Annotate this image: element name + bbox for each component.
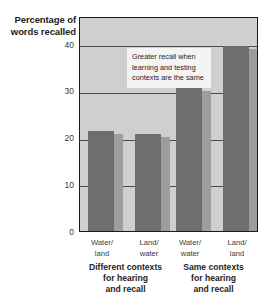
bar-shadow: [249, 49, 258, 231]
x-axis-category-label-line: water: [127, 249, 171, 260]
y-axis-title-line-2: words recalled: [2, 26, 76, 38]
bar: [88, 131, 114, 231]
x-axis-group-label: Different contextsfor hearingand recall: [80, 262, 172, 295]
x-axis-group-label: Same contextsfor hearingand recall: [168, 262, 260, 295]
x-axis-category-label-line: Water/: [80, 238, 124, 249]
bar-chart: Percentage of words recalled 010203040 G…: [0, 0, 266, 301]
x-axis-group-label-line: for hearing: [168, 273, 260, 284]
y-axis-tick-label: 40: [52, 41, 74, 50]
x-axis-category-label-line: water: [168, 249, 212, 260]
bar-shadow: [202, 91, 211, 231]
x-axis-category-label: Water/land: [80, 238, 124, 259]
bar: [223, 46, 249, 231]
annotation-line-3: contexts are the same: [132, 73, 207, 84]
x-axis-category-label-line: land: [215, 249, 259, 260]
x-axis-category-label: Land/water: [127, 238, 171, 259]
annotation-line-2: learning and testing: [132, 63, 207, 74]
bar-shadow: [114, 134, 123, 231]
x-axis-group-label-line: Same contexts: [168, 262, 260, 273]
x-axis-group-label-line: and recall: [168, 284, 260, 295]
x-axis-group-label-line: for hearing: [80, 273, 172, 284]
y-axis-tick-label: 20: [52, 134, 74, 143]
x-axis-category-label-line: Water/: [168, 238, 212, 249]
bar: [176, 88, 202, 231]
annotation-callout: Greater recall when learning and testing…: [127, 48, 211, 88]
y-axis-tick-label: 0: [52, 228, 74, 237]
bar: [135, 134, 161, 231]
x-axis-group-label-line: Different contexts: [80, 262, 172, 273]
y-axis-tick-label: 30: [52, 87, 74, 96]
y-axis-tick-label: 10: [52, 181, 74, 190]
x-axis-category-label: Land/land: [215, 238, 259, 259]
y-axis-title-line-1: Percentage of: [2, 14, 76, 26]
x-axis-category-label-line: land: [80, 249, 124, 260]
x-axis-group-label-line: and recall: [80, 284, 172, 295]
x-axis-category-label: Water/water: [168, 238, 212, 259]
y-axis-title: Percentage of words recalled: [2, 14, 76, 38]
x-axis-category-label-line: Land/: [215, 238, 259, 249]
annotation-line-1: Greater recall when: [132, 52, 207, 63]
bar-shadow: [161, 137, 170, 231]
x-axis-category-label-line: Land/: [127, 238, 171, 249]
